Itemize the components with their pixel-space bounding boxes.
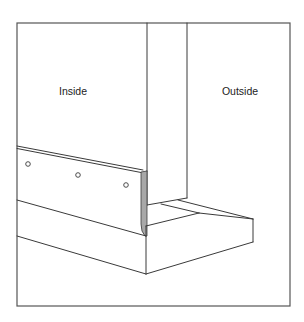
threshold-diagram: Inside Outside: [0, 0, 304, 322]
fastener-hole-2: [76, 173, 81, 178]
outside-label: Outside: [222, 85, 258, 97]
fastener-hole-3: [124, 183, 129, 188]
inside-label: Inside: [59, 85, 87, 97]
diagram-frame: [17, 23, 290, 306]
fastener-hole-1: [26, 162, 31, 167]
